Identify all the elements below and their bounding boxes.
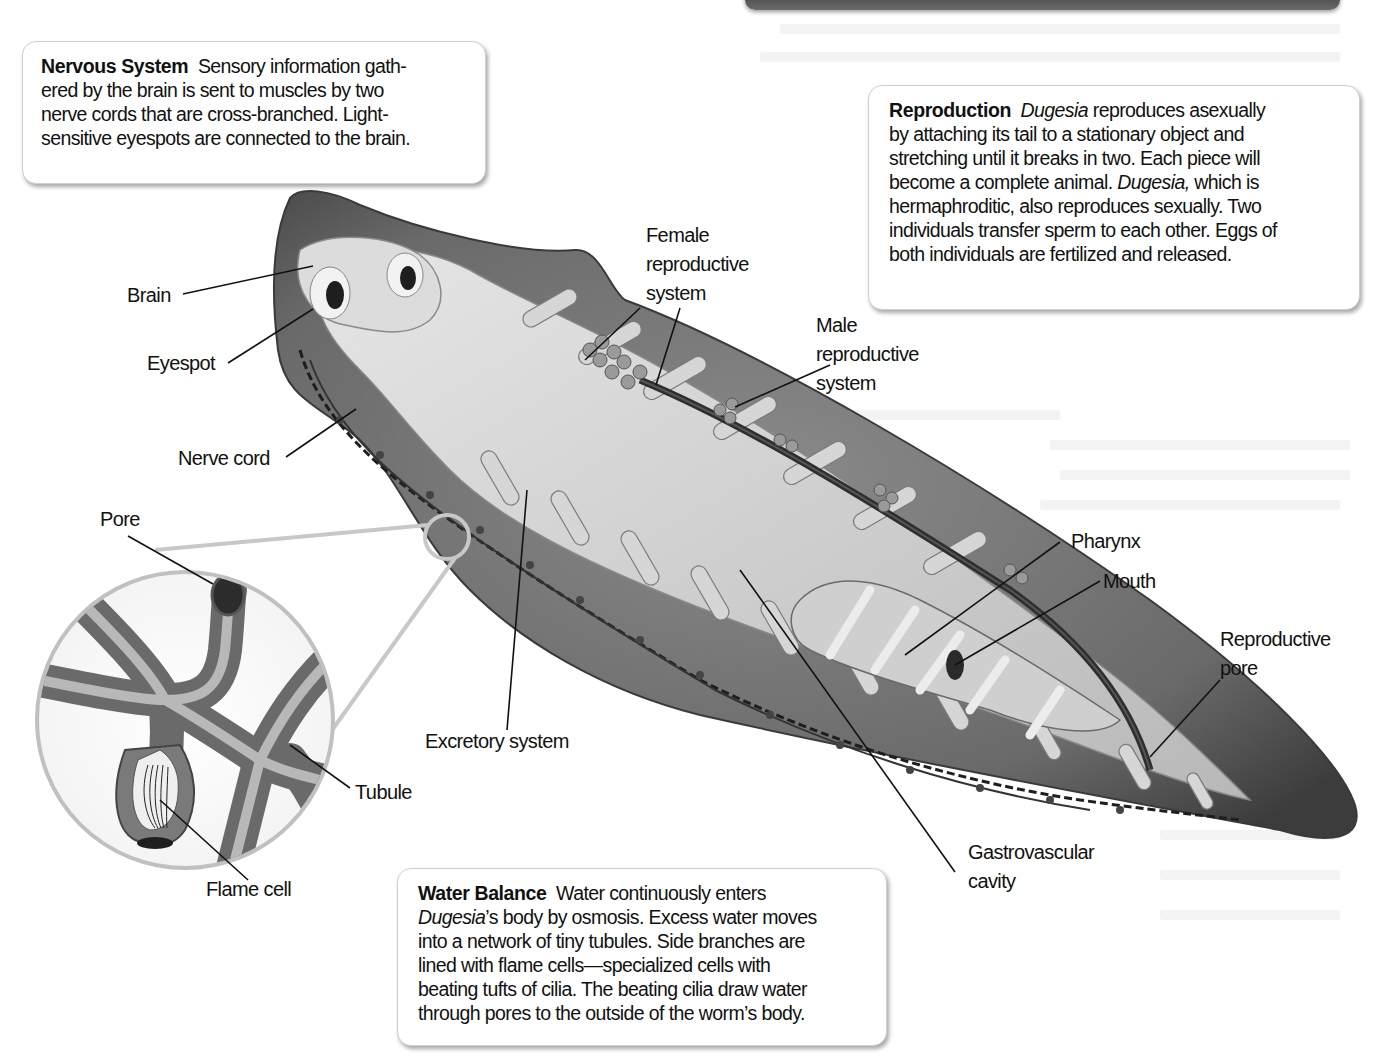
callout-text: reproduces asexually (1088, 99, 1265, 121)
label-male-reproductive-system: Male reproductive system (816, 311, 919, 398)
callout-text: stretching until it breaks in two. Each … (889, 146, 1345, 170)
label-mouth: Mouth (1103, 569, 1156, 593)
reproduction-callout: Reproduction Dugesia reproduces asexuall… (868, 85, 1360, 310)
callout-text: sensitive eyespots are connected to the … (41, 126, 471, 150)
label-line: Reproductive (1220, 625, 1331, 654)
label-line: reproductive (646, 250, 749, 279)
label-female-reproductive-system: Female reproductive system (646, 221, 749, 308)
callout-text: Sensory information gath- (198, 55, 406, 77)
callout-text: both individuals are fertilized and rele… (889, 242, 1345, 266)
label-nerve-cord: Nerve cord (178, 446, 270, 470)
label-line: Male (816, 311, 919, 340)
label-line: system (646, 279, 749, 308)
label-line: Female (646, 221, 749, 250)
water-balance-callout: Water Balance Water continuously enters … (397, 868, 887, 1046)
label-excretory-system: Excretory system (425, 729, 569, 753)
callout-text: ered by the brain is sent to muscles by … (41, 78, 471, 102)
label-line: Gastrovascular (968, 838, 1094, 867)
callout-italic: Dugesia (1021, 99, 1088, 121)
callout-italic: Dugesia, (1117, 171, 1189, 193)
nervous-system-callout: Nervous System Sensory information gath-… (22, 41, 486, 184)
callout-text: individuals transfer sperm to each other… (889, 218, 1345, 242)
callout-text: by attaching its tail to a stationary ob… (889, 122, 1345, 146)
label-tubule: Tubule (355, 780, 412, 804)
callout-text: which is (1189, 171, 1258, 193)
callout-text: Water continuously enters (556, 882, 766, 904)
label-pore: Pore (100, 507, 140, 531)
label-line: cavity (968, 867, 1094, 896)
label-line: system (816, 369, 919, 398)
label-gastrovascular-cavity: Gastrovascular cavity (968, 838, 1094, 896)
flame-cell-inset (37, 525, 455, 880)
label-line: pore (1220, 654, 1331, 683)
callout-text: into a network of tiny tubules. Side bra… (418, 929, 872, 953)
label-pharynx: Pharynx (1071, 529, 1140, 553)
callout-text: beating tufts of cilia. The beating cili… (418, 977, 872, 1001)
callout-title: Water Balance (418, 882, 546, 904)
callout-text: hermaphroditic, also reproduces sexually… (889, 194, 1345, 218)
callout-title: Reproduction (889, 99, 1011, 121)
callout-italic: Dugesia (418, 906, 485, 928)
label-reproductive-pore: Reproductive pore (1220, 625, 1331, 683)
callout-text: through pores to the outside of the worm… (418, 1001, 872, 1025)
callout-title: Nervous System (41, 55, 188, 77)
callout-text: ’s body by osmosis. Excess water moves (485, 906, 816, 928)
callout-text: lined with flame cells—specialized cells… (418, 953, 872, 977)
callout-text: nerve cords that are cross-branched. Lig… (41, 102, 471, 126)
label-brain: Brain (127, 283, 171, 307)
label-flame-cell: Flame cell (206, 877, 291, 901)
callout-text: become a complete animal. (889, 171, 1117, 193)
label-line: reproductive (816, 340, 919, 369)
label-eyespot: Eyespot (147, 351, 215, 375)
